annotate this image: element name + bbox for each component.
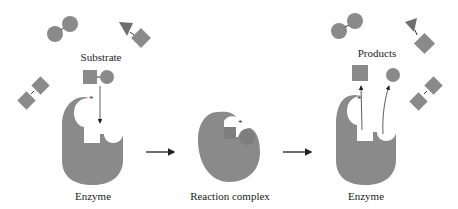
reaction-complex-label: Reaction complex (190, 190, 270, 202)
substrate-square-bound (224, 127, 236, 139)
substrate-square-circle (83, 70, 114, 84)
substrate-label: Substrate (81, 51, 122, 63)
molecule-two-circles-right (331, 13, 363, 39)
product-release-arrow-square (361, 86, 362, 130)
molecule-triangle-square-right (405, 18, 435, 54)
molecule-triangle-square-left (119, 22, 151, 48)
product-square (352, 65, 368, 81)
active-site-marker-2: * (238, 118, 243, 128)
enzyme-1 (62, 97, 123, 185)
molecule-two-circles-left (47, 16, 78, 42)
products-label: Products (358, 47, 397, 59)
enzyme-3 (336, 95, 396, 185)
molecule-two-squares-left (17, 76, 49, 109)
enzyme-label-right: Enzyme (348, 190, 384, 202)
active-site-marker-1: * (89, 94, 94, 104)
substrate-circle-bound (239, 129, 255, 145)
enzyme-label-left: Enzyme (75, 190, 111, 202)
enzyme-diagram: * * * (0, 0, 458, 209)
molecule-two-squares-right (409, 76, 442, 110)
enzyme-complex (198, 112, 260, 182)
product-circle (386, 68, 400, 82)
product-release-arrow-circle (383, 86, 389, 134)
